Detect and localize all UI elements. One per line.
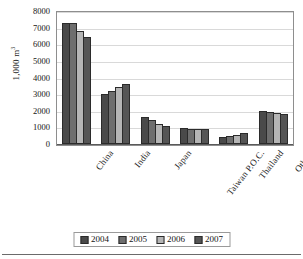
- axis-baseline: [57, 144, 293, 145]
- y-tick-label: 4000: [33, 73, 50, 82]
- legend-item-2006[interactable]: 2006: [156, 235, 185, 244]
- bar-group: [259, 12, 287, 144]
- bottom-divider: [2, 254, 301, 255]
- legend-swatch-icon: [194, 236, 202, 244]
- bar-group: [63, 12, 91, 144]
- plot-area: [56, 11, 294, 146]
- legend-swatch-icon: [118, 236, 126, 244]
- bar-2007-china: [83, 37, 91, 144]
- x-label-china: China: [93, 148, 115, 172]
- y-tick-label: 2000: [33, 107, 50, 116]
- bar-2007-taiwan-p-o-c: [201, 129, 209, 144]
- legend-item-2007[interactable]: 2007: [194, 235, 223, 244]
- x-label-india: India: [132, 148, 152, 170]
- legend-swatch-icon: [156, 236, 164, 244]
- bar-group: [102, 12, 130, 144]
- x-axis-category-labels: ChinaIndiaJapanTaiwan P.O.C.ThailandOthe…: [56, 148, 294, 218]
- legend-label: 2006: [167, 235, 185, 244]
- y-tick-label: 0: [46, 140, 50, 149]
- y-tick-label: 7000: [33, 23, 50, 32]
- bar-2007-thailand: [240, 133, 248, 144]
- bar-group: [220, 12, 248, 144]
- x-label-others: Others: [293, 148, 303, 174]
- bar-chart-figure: 1,000 m3 8000700060005000400030002000100…: [0, 0, 303, 259]
- x-label-japan: Japan: [172, 148, 193, 171]
- chart-legend: 2004200520062007: [73, 232, 230, 247]
- bar-group: [141, 12, 169, 144]
- y-axis-title-text: 1,000 m: [11, 50, 21, 81]
- y-axis-title-superscript: 3: [10, 46, 16, 49]
- y-tick-label: 1000: [33, 123, 50, 132]
- legend-label: 2004: [91, 235, 109, 244]
- legend-swatch-icon: [80, 236, 88, 244]
- bar-2007-others: [280, 114, 288, 144]
- y-tick-label: 6000: [33, 40, 50, 49]
- plot-wrapper: 1,000 m3 8000700060005000400030002000100…: [0, 0, 303, 259]
- y-tick-label: 5000: [33, 57, 50, 66]
- legend-item-2005[interactable]: 2005: [118, 235, 147, 244]
- bar-2007-japan: [162, 126, 170, 144]
- y-tick-label: 8000: [33, 7, 50, 16]
- bar-2007-india: [122, 84, 130, 144]
- y-axis-title: 1,000 m3: [10, 27, 21, 101]
- bar-groups: [57, 12, 293, 144]
- bar-group: [181, 12, 209, 144]
- legend-item-2004[interactable]: 2004: [80, 235, 109, 244]
- legend-label: 2005: [129, 235, 147, 244]
- y-axis-tick-labels: 800070006000500040003000200010000: [24, 10, 54, 146]
- y-tick-label: 3000: [33, 90, 50, 99]
- legend-label: 2007: [205, 235, 223, 244]
